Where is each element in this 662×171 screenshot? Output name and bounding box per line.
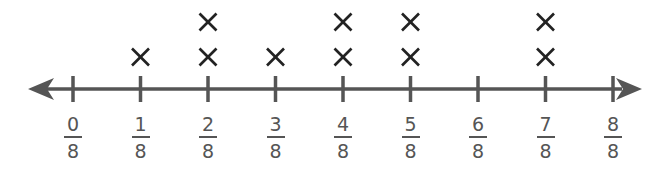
denominator: 8: [598, 141, 628, 161]
numerator: 4: [328, 114, 358, 134]
tick-label: 28: [193, 114, 223, 161]
number-line: [28, 76, 642, 102]
numerator: 1: [126, 114, 156, 134]
tick-label: 58: [396, 114, 426, 161]
tick-label: 18: [126, 114, 156, 161]
numerator: 2: [193, 114, 223, 134]
fraction-bar: [604, 136, 622, 138]
numerator: 0: [58, 114, 88, 134]
fraction-bar: [64, 136, 82, 138]
fraction-bar: [132, 136, 150, 138]
denominator: 8: [396, 141, 426, 161]
x-mark-icon: [402, 49, 419, 66]
tick-label: 48: [328, 114, 358, 161]
x-mark-icon: [402, 14, 419, 31]
fraction-bar: [334, 136, 352, 138]
x-marks: [132, 14, 554, 66]
numerator: 5: [396, 114, 426, 134]
denominator: 8: [126, 141, 156, 161]
denominator: 8: [58, 141, 88, 161]
tick-label: 08: [58, 114, 88, 161]
tick-label: 88: [598, 114, 628, 161]
numerator: 8: [598, 114, 628, 134]
x-mark-icon: [335, 14, 352, 31]
x-mark-icon: [335, 49, 352, 66]
fraction-bar: [402, 136, 420, 138]
x-mark-icon: [537, 49, 554, 66]
x-mark-icon: [267, 49, 284, 66]
denominator: 8: [531, 141, 561, 161]
x-mark-icon: [537, 14, 554, 31]
fraction-bar: [199, 136, 217, 138]
numerator: 6: [463, 114, 493, 134]
denominator: 8: [193, 141, 223, 161]
denominator: 8: [261, 141, 291, 161]
x-mark-icon: [132, 49, 149, 66]
x-mark-icon: [200, 49, 217, 66]
x-mark-icon: [200, 14, 217, 31]
tick-label: 38: [261, 114, 291, 161]
tick-label: 78: [531, 114, 561, 161]
numerator: 3: [261, 114, 291, 134]
fraction-bar: [469, 136, 487, 138]
denominator: 8: [463, 141, 493, 161]
denominator: 8: [328, 141, 358, 161]
fraction-bar: [537, 136, 555, 138]
fraction-bar: [267, 136, 285, 138]
numerator: 7: [531, 114, 561, 134]
tick-label: 68: [463, 114, 493, 161]
